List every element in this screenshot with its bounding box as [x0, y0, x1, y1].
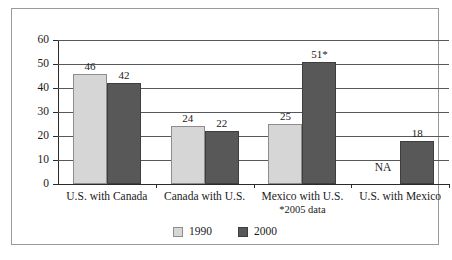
bar-value-label: 18 — [412, 128, 423, 139]
y-axis-tick-label: 0 — [12, 178, 49, 190]
y-axis-tick-label: 30 — [12, 106, 49, 118]
y-axis-tick — [53, 88, 58, 89]
legend-label: 2000 — [254, 226, 277, 238]
legend-label: 1990 — [189, 226, 212, 238]
gridline — [58, 40, 449, 41]
legend-item[interactable]: 1990 — [173, 226, 212, 238]
bar — [171, 126, 205, 184]
y-axis-tick-label: 60 — [12, 34, 49, 46]
bar-value-label: 42 — [118, 70, 129, 81]
x-axis-tick — [156, 184, 157, 188]
x-axis-category-label: Mexico with U.S.*2005 data — [261, 190, 343, 216]
bar-chart-figure: 0102030405060 464224222551*NA18 U.S. wit… — [0, 0, 452, 260]
x-axis-tick — [351, 184, 352, 188]
y-axis-tick — [53, 136, 58, 137]
bar-value-label: 51* — [311, 49, 328, 60]
y-axis-tick-label: 10 — [12, 154, 49, 166]
y-axis-tick — [53, 64, 58, 65]
bar-value-label: 22 — [216, 118, 227, 129]
bar-value-label: 24 — [182, 113, 193, 124]
y-axis-tick — [53, 160, 58, 161]
bar-value-label: 25 — [280, 111, 291, 122]
legend-swatch-icon — [238, 227, 248, 237]
x-axis-tick — [449, 184, 450, 188]
bar — [400, 141, 434, 184]
y-axis-tick — [53, 40, 58, 41]
x-axis-category-label: U.S. with Canada — [66, 190, 147, 203]
x-axis-category-label: U.S. with Mexico — [359, 190, 441, 203]
gridline — [58, 64, 449, 65]
x-axis-category-label: Canada with U.S. — [164, 190, 245, 203]
x-axis-category-note: *2005 data — [261, 203, 343, 216]
bar-value-label: 46 — [84, 61, 95, 72]
y-axis-tick-label: 50 — [12, 58, 49, 70]
na-annotation: NA — [375, 162, 392, 174]
bar — [268, 124, 302, 184]
chart-frame: 0102030405060 464224222551*NA18 U.S. wit… — [11, 8, 439, 245]
x-axis-tick — [254, 184, 255, 188]
y-axis-tick — [53, 184, 58, 185]
bar — [107, 83, 141, 184]
bar — [73, 74, 107, 184]
legend-item[interactable]: 2000 — [238, 226, 277, 238]
chart-legend: 19902000 — [12, 226, 438, 238]
bar — [302, 62, 336, 184]
y-axis-tick-label: 20 — [12, 130, 49, 142]
y-axis-tick-label: 40 — [12, 82, 49, 94]
bar — [205, 131, 239, 184]
legend-swatch-icon — [173, 227, 183, 237]
y-axis-tick — [53, 112, 58, 113]
